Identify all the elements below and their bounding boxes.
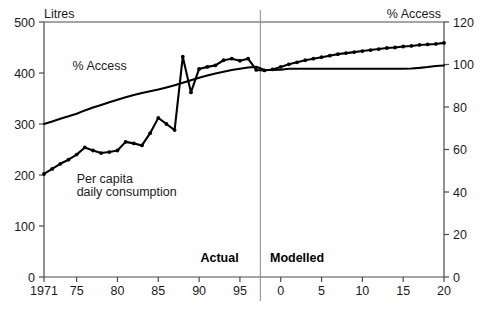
- x-tick-label: 0: [277, 284, 284, 298]
- series-marker: [214, 63, 218, 67]
- left-tick-label: 400: [14, 67, 35, 81]
- series-marker: [328, 54, 332, 58]
- series-marker: [238, 59, 242, 63]
- x-tick-label: 10: [355, 284, 369, 298]
- series-marker: [50, 167, 54, 171]
- series-marker: [352, 50, 356, 54]
- phase-label: Actual: [200, 251, 238, 265]
- left-tick-label: 500: [14, 16, 35, 30]
- series-marker: [116, 149, 120, 153]
- series-annotation: daily consumption: [77, 185, 177, 199]
- series-marker: [230, 57, 234, 61]
- x-tick-label: 1971: [30, 284, 58, 298]
- series-marker: [197, 67, 201, 71]
- series-marker: [91, 149, 95, 153]
- right-tick-label: 60: [453, 143, 467, 157]
- series-marker: [42, 172, 46, 176]
- series-marker: [377, 47, 381, 51]
- left-tick-label: 300: [14, 118, 35, 132]
- series-marker: [132, 141, 136, 145]
- series-marker: [295, 60, 299, 64]
- chart-figure: 0100200300400500 020406080100120 1971758…: [0, 0, 493, 314]
- x-tick-label: 90: [192, 284, 206, 298]
- series-marker: [156, 116, 160, 120]
- series-marker: [311, 57, 315, 61]
- series-marker: [181, 55, 185, 59]
- series-marker: [287, 62, 291, 66]
- series-marker: [434, 42, 438, 46]
- phase-label: Modelled: [270, 251, 324, 265]
- series-marker: [99, 151, 103, 155]
- series-marker: [148, 131, 152, 135]
- series-marker: [254, 68, 258, 72]
- series-annotation: Per capita: [77, 172, 133, 186]
- x-tick-label: 80: [111, 284, 125, 298]
- left-axis-title: Litres: [44, 7, 75, 21]
- series-marker: [442, 41, 446, 45]
- series-marker: [385, 46, 389, 50]
- series-marker: [173, 128, 177, 132]
- series-marker: [418, 43, 422, 47]
- x-tick-label: 75: [70, 284, 84, 298]
- series-marker: [140, 144, 144, 148]
- right-tick-label: 0: [453, 271, 460, 285]
- series-marker: [344, 51, 348, 55]
- series-marker: [409, 44, 413, 48]
- x-tick-label: 15: [396, 284, 410, 298]
- left-tick-label: 200: [14, 169, 35, 183]
- series-marker: [393, 46, 397, 50]
- left-tick-label: 100: [14, 220, 35, 234]
- series-marker: [401, 45, 405, 49]
- series-annotation: % Access: [73, 59, 127, 73]
- series-marker: [58, 162, 62, 166]
- series-marker: [83, 146, 87, 150]
- series-marker: [75, 153, 79, 157]
- x-tick-label: 20: [437, 284, 451, 298]
- series-marker: [426, 43, 430, 47]
- chart-canvas: 0100200300400500 020406080100120 1971758…: [0, 0, 493, 314]
- x-tick-label: 5: [318, 284, 325, 298]
- series-marker: [107, 150, 111, 154]
- series-marker: [189, 90, 193, 94]
- right-tick-label: 100: [453, 58, 474, 72]
- series-marker: [124, 140, 128, 144]
- series-marker: [336, 52, 340, 56]
- series-marker: [205, 65, 209, 69]
- series-marker: [369, 48, 373, 52]
- right-tick-label: 120: [453, 16, 474, 30]
- right-tick-label: 40: [453, 186, 467, 200]
- series-marker: [165, 122, 169, 126]
- series-marker: [246, 57, 250, 61]
- right-tick-label: 20: [453, 228, 467, 242]
- x-tick-label: 95: [233, 284, 247, 298]
- series-marker: [360, 49, 364, 53]
- series-marker: [279, 65, 283, 69]
- right-axis-title: % Access: [387, 7, 441, 21]
- left-tick-label: 0: [28, 271, 35, 285]
- series-marker: [320, 55, 324, 59]
- series-marker: [303, 58, 307, 62]
- series-marker: [67, 158, 71, 162]
- x-tick-label: 85: [151, 284, 165, 298]
- right-tick-label: 80: [453, 101, 467, 115]
- series-marker: [222, 58, 226, 62]
